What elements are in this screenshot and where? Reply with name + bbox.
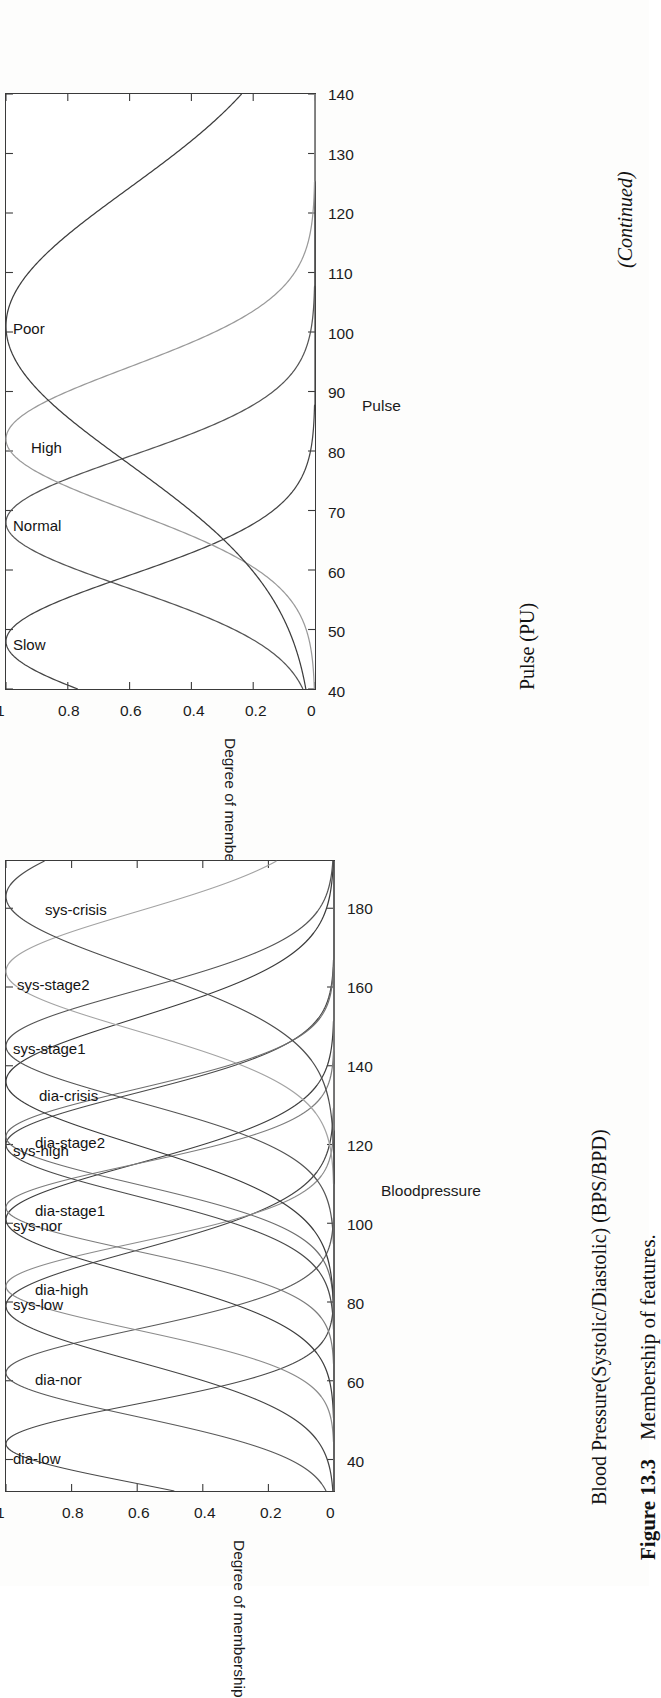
curve-Normal <box>6 94 315 689</box>
curve-dia-stage1 <box>6 861 334 1491</box>
curve-label-dia-low: dia-low <box>13 1450 61 1467</box>
curve-label-Normal: Normal <box>13 517 61 534</box>
x-tick-label: 110 <box>328 265 353 283</box>
x-tick-label: 100 <box>347 1216 373 1234</box>
curve-label-High: High <box>31 439 62 456</box>
y-tick-label: 0.4 <box>183 702 205 720</box>
curve-label-sys-crisis: sys-crisis <box>45 901 107 918</box>
figure-caption-label: Figure 13.3 <box>636 1459 660 1560</box>
curve-sys-nor <box>6 861 334 1491</box>
curve-label-dia-stage2: dia-stage2 <box>35 1134 105 1151</box>
curve-label-sys-stage2: sys-stage2 <box>17 976 90 993</box>
figure-caption: Figure 13.3 Membership of features. <box>636 1234 661 1560</box>
pulse-chart: 405060708090100110120130140 00.20.40.60.… <box>5 25 403 690</box>
curve-sys-low <box>6 861 334 1491</box>
x-tick-label: 130 <box>328 146 354 164</box>
pulse-axis-caption: Pulse (PU) <box>516 603 539 690</box>
x-tick-label: 60 <box>347 1374 364 1392</box>
x-tick-label: 80 <box>328 444 345 462</box>
bp-x-axis-title: Bloodpressure <box>381 1182 481 1200</box>
bloodpressure-curves <box>6 861 334 1491</box>
curve-dia-high <box>6 861 334 1491</box>
y-tick-label: 0.8 <box>58 702 80 720</box>
pulse-x-axis-title: Pulse <box>362 398 401 416</box>
curve-label-sys-low: sys-low <box>13 1296 63 1313</box>
x-tick-label: 90 <box>328 385 345 403</box>
y-tick-label: 1 <box>0 1504 5 1522</box>
x-tick-label: 100 <box>328 325 354 343</box>
y-tick-label: 0.2 <box>245 702 267 720</box>
x-tick-label: 140 <box>328 86 354 104</box>
y-tick-label: 0.2 <box>260 1504 282 1522</box>
x-tick-label: 160 <box>347 979 373 997</box>
curve-sys-crisis <box>6 861 334 1491</box>
pulse-plot-area <box>5 93 316 690</box>
x-tick-label: 120 <box>347 1137 373 1155</box>
y-tick-label: 0.8 <box>62 1504 84 1522</box>
x-tick-label: 60 <box>328 564 345 582</box>
bloodpressure-chart: 406080100120140160180 00.20.40.60.81 dia… <box>5 792 425 1492</box>
y-tick-label: 1 <box>0 702 5 720</box>
curve-label-sys-stage1: sys-stage1 <box>13 1040 86 1057</box>
curve-label-dia-high: dia-high <box>35 1281 88 1298</box>
bloodpressure-plot-area <box>5 860 335 1492</box>
y-tick-label: 0.6 <box>128 1504 150 1522</box>
curve-dia-nor <box>6 861 334 1491</box>
pulse-curves <box>6 94 315 689</box>
x-tick-label: 140 <box>347 1058 373 1076</box>
curve-label-dia-crisis: dia-crisis <box>39 1087 98 1104</box>
y-tick-label: 0.4 <box>194 1504 216 1522</box>
pulse-chart-rotated-group: 405060708090100110120130140 00.20.40.60.… <box>5 25 403 690</box>
curve-dia-stage2 <box>6 861 334 1491</box>
x-tick-label: 120 <box>328 205 354 223</box>
curve-label-dia-nor: dia-nor <box>35 1371 82 1388</box>
figure-caption-text: Membership of features. <box>636 1234 660 1440</box>
x-tick-label: 180 <box>347 900 373 918</box>
curve-label-Poor: Poor <box>13 320 45 337</box>
y-tick-label: 0 <box>326 1504 335 1522</box>
x-tick-label: 70 <box>328 504 345 522</box>
x-tick-label: 40 <box>347 1453 364 1471</box>
y-tick-label: 0.6 <box>120 702 142 720</box>
curve-dia-crisis <box>6 861 334 1491</box>
bp-y-axis-title: Degree of membership <box>230 1540 248 1698</box>
bloodpressure-chart-rotated-group: 406080100120140160180 00.20.40.60.81 dia… <box>5 792 425 1492</box>
y-tick-label: 0 <box>307 702 316 720</box>
curve-sys-high <box>6 861 334 1491</box>
curve-dia-low <box>6 861 334 1491</box>
curve-Poor <box>6 94 306 689</box>
x-tick-label: 50 <box>328 623 345 641</box>
continued-note: (Continued) <box>614 171 637 268</box>
curve-label-dia-stage1: dia-stage1 <box>35 1202 105 1219</box>
curve-sys-stage1 <box>6 861 334 1491</box>
curve-label-sys-nor: sys-nor <box>13 1217 62 1234</box>
x-tick-label: 40 <box>328 683 345 701</box>
curve-label-Slow: Slow <box>13 636 46 653</box>
bp-axis-caption: Blood Pressure(Systolic/Diastolic) (BPS/… <box>588 1129 611 1505</box>
curve-sys-stage2 <box>6 861 334 1491</box>
tick-marks <box>6 861 334 1491</box>
x-tick-label: 80 <box>347 1295 364 1313</box>
